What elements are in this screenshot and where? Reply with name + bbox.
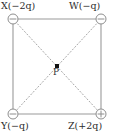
charge-X[interactable] [8, 14, 18, 24]
charge-W-label: W(−q) [69, 1, 100, 11]
point-p-label: P [53, 68, 59, 77]
charge-Y-label: Y(−q) [1, 121, 29, 131]
charge-Z[interactable] [96, 109, 106, 119]
charge-W[interactable] [96, 14, 106, 24]
charge-square-figure: X(−2q) W(−q) Y(−q) Z(+2q) P [0, 0, 118, 135]
charge-X-label: X(−2q) [1, 1, 35, 11]
charge-Y[interactable] [8, 109, 18, 119]
charge-Z-label: Z(+2q) [68, 121, 102, 131]
